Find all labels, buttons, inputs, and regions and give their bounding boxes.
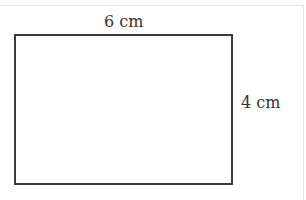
rectangle-shape — [14, 34, 233, 185]
height-label: 4 cm — [241, 93, 280, 112]
width-label: 6 cm — [104, 12, 143, 31]
